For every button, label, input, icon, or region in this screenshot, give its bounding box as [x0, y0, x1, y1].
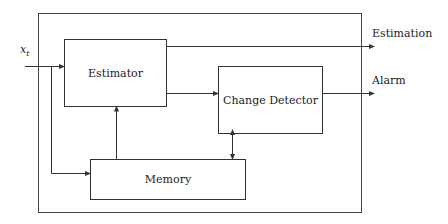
estimation-label: Estimation — [372, 27, 432, 40]
change-detector-block: Change Detector — [219, 67, 323, 134]
estimator-label: Estimator — [88, 67, 144, 80]
estimator-block: Estimator — [65, 40, 167, 107]
input-label: xt — [20, 43, 30, 58]
memory-block: Memory — [91, 160, 246, 200]
change-detector-label: Change Detector — [223, 94, 319, 107]
block-diagram: xt Estimator Estimation Change Detector … — [0, 0, 448, 224]
alarm-label: Alarm — [371, 74, 406, 87]
memory-label: Memory — [145, 173, 192, 186]
